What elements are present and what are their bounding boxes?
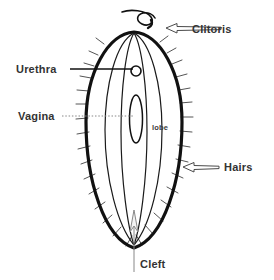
hairs-arrow: [183, 163, 219, 173]
anatomy-diagram: Clitoris Urethra Vagina Hairs Cleft lobe: [0, 0, 274, 280]
urethral-opening: [131, 66, 141, 76]
diagram-canvas: [0, 0, 274, 280]
vaginal-opening: [130, 95, 143, 143]
label-clitoris: Clitoris: [192, 23, 232, 35]
label-lobe: lobe: [152, 123, 168, 132]
label-cleft: Cleft: [140, 258, 165, 270]
clitoris-hook: [122, 10, 155, 28]
label-vagina: Vagina: [18, 110, 55, 122]
label-urethra: Urethra: [16, 63, 57, 75]
label-hairs: Hairs: [224, 161, 253, 173]
